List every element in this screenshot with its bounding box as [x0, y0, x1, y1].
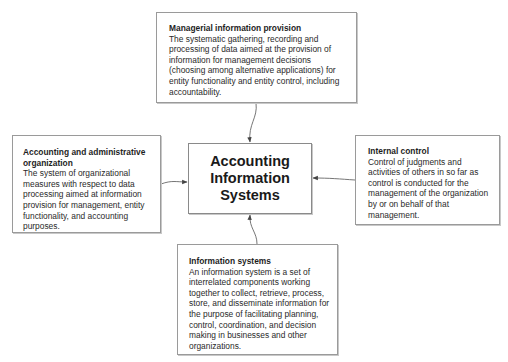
arrow-left-to-center — [161, 182, 187, 185]
box-title: Information systems — [189, 256, 331, 267]
center-title: Accounting Information Systems — [189, 153, 311, 204]
box-title: Internal control — [368, 146, 493, 157]
box-body: An information system is a set of interr… — [189, 267, 331, 352]
box-title: Managerial information provision — [169, 23, 346, 34]
box-body: The systematic gathering, recording and … — [169, 34, 346, 98]
information-systems-box: Information systems An information syste… — [177, 244, 338, 355]
box-body: The system of organizational measures wi… — [23, 168, 152, 232]
accounting-information-systems-box: Accounting Information Systems — [188, 143, 312, 214]
internal-control-box: Internal control Control of judgments an… — [355, 135, 500, 225]
arrow-top-to-center — [250, 103, 257, 142]
managerial-information-provision-box: Managerial information provision The sys… — [156, 12, 357, 103]
arrow-bottom-to-center — [250, 215, 257, 244]
accounting-administrative-organization-box: Accounting and administrative organizati… — [12, 135, 161, 233]
arrow-right-to-center — [313, 178, 355, 180]
box-body: Control of judgments and activities of o… — [368, 157, 493, 221]
box-title: Accounting and administrative organizati… — [23, 147, 152, 168]
